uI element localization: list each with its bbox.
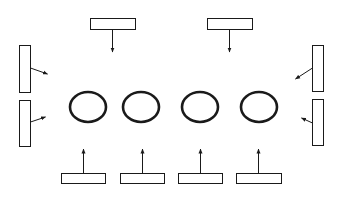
diagram-canvas [0, 0, 345, 201]
block-bottom-2 [121, 149, 165, 184]
block-left-upper [20, 46, 48, 93]
block-right-lower [302, 100, 324, 146]
block-bottom-4 [237, 149, 282, 184]
block-top-right [208, 19, 253, 53]
block-rect [237, 174, 282, 184]
circle-2 [123, 92, 159, 122]
block-rect [20, 46, 31, 93]
arrow-icon [31, 68, 48, 74]
block-top-left [91, 19, 136, 53]
arrow-icon [296, 68, 313, 79]
block-rect [179, 174, 223, 184]
arrow-icon [31, 117, 46, 122]
block-rect [208, 19, 253, 30]
circle-1 [70, 92, 106, 122]
block-bottom-3 [179, 149, 223, 184]
circle-4 [241, 92, 277, 122]
block-rect [313, 100, 324, 146]
circle-3 [182, 92, 218, 122]
block-rect [62, 174, 106, 184]
arrow-icon [302, 118, 313, 123]
block-right-upper [296, 46, 324, 92]
block-bottom-1 [62, 149, 106, 184]
block-rect [121, 174, 165, 184]
circles-group [70, 92, 277, 122]
block-left-lower [20, 101, 46, 147]
block-rect [313, 46, 324, 92]
blocks-group [20, 19, 324, 184]
block-rect [20, 101, 31, 147]
block-rect [91, 19, 136, 30]
